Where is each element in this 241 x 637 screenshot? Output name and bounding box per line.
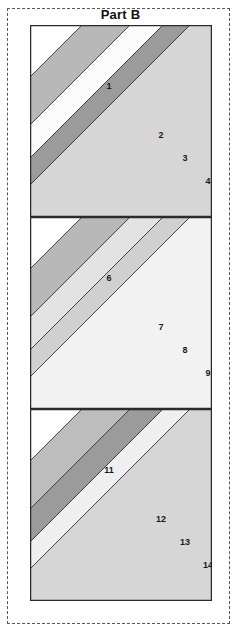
block-top: 12345 bbox=[30, 25, 212, 217]
block-middle: 678910 bbox=[30, 217, 212, 409]
block-bottom: 1112131415 bbox=[30, 409, 212, 601]
block-stack: 123456789101112131415 bbox=[30, 25, 212, 601]
patch-number-1: 1 bbox=[106, 81, 111, 91]
patch-number-4: 4 bbox=[205, 176, 210, 186]
patch-number-14: 14 bbox=[203, 560, 212, 570]
patch-number-2: 2 bbox=[158, 130, 163, 140]
page-title: Part B bbox=[0, 7, 241, 23]
patch-number-7: 7 bbox=[158, 322, 163, 332]
patch-number-8: 8 bbox=[182, 345, 187, 355]
pattern-page: Part B 123456789101112131415 bbox=[0, 0, 241, 637]
patch-number-13: 13 bbox=[180, 537, 190, 547]
patch-number-12: 12 bbox=[156, 514, 166, 524]
patch-number-9: 9 bbox=[205, 368, 210, 378]
patch-number-6: 6 bbox=[106, 273, 111, 283]
patch-number-3: 3 bbox=[182, 153, 187, 163]
patch-number-11: 11 bbox=[104, 465, 114, 475]
